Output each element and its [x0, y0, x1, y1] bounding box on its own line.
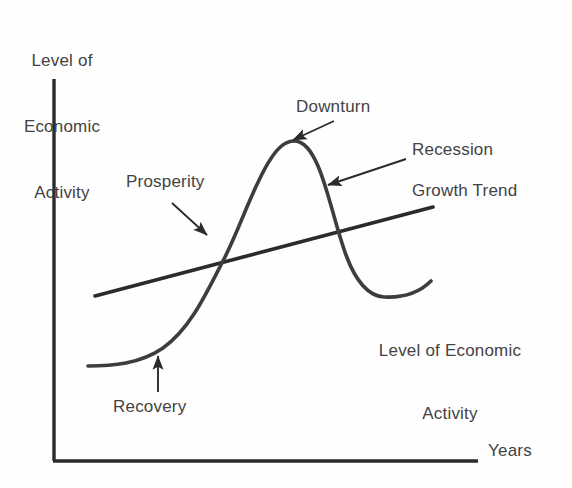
y-axis-title-line-3: Activity — [6, 182, 118, 204]
prosperity-arrow — [172, 203, 207, 235]
curve-label-line-2: Activity — [362, 403, 538, 424]
business-cycle-diagram: Level of Economic Activity Prosperity Do… — [0, 0, 572, 488]
x-axis-title: Years — [488, 440, 532, 461]
recession-arrow — [328, 159, 406, 185]
y-axis-title-line-1: Level of — [6, 50, 118, 72]
annotation-label-recession: Recession — [412, 139, 493, 160]
annotation-label-prosperity: Prosperity — [126, 171, 205, 192]
curve-label-line-1: Level of Economic — [362, 340, 538, 361]
y-axis-title-line-2: Economic — [6, 116, 118, 138]
growth-trend-line — [95, 207, 433, 296]
downturn-arrow — [293, 121, 334, 140]
annotation-label-growth-trend: Growth Trend — [412, 180, 517, 201]
annotation-label-recovery: Recovery — [113, 396, 186, 417]
y-axis-title: Level of Economic Activity — [6, 6, 118, 248]
annotation-label-downturn: Downturn — [296, 96, 370, 117]
